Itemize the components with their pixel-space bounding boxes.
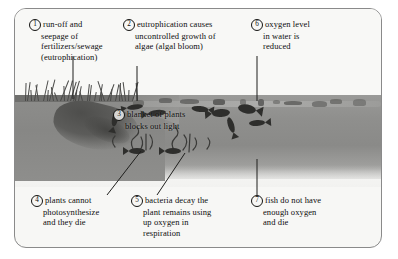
label-number-2: 2 xyxy=(123,19,135,31)
label-text-line: blocks out light xyxy=(113,121,225,131)
label-text-line: and they die xyxy=(31,217,135,227)
label-text-line: up oxygen in xyxy=(131,217,243,227)
label-bacteria-decay: 5bacteria decay the plant remains using … xyxy=(131,195,243,238)
label-text-line: blanket of plants xyxy=(127,109,185,119)
label-text-line: oxygen level xyxy=(265,19,310,29)
label-text-line: fertilizers/sewage xyxy=(29,41,133,51)
label-eutrophication-causes-algae: 2eutrophication causes uncontrolled grow… xyxy=(123,19,247,52)
label-plants-cannot-photosynthesize: 4plants cannot photosynthesize and they … xyxy=(31,195,135,228)
label-text-line: plant remains using xyxy=(131,207,243,217)
label-run-off-and-seepage: 1run-off and seepage of fertilizers/sewa… xyxy=(29,19,133,62)
label-blanket-of-plants: 3blanket of plants blocks out light xyxy=(113,109,225,131)
diagram-root: 1run-off and seepage of fertilizers/sewa… xyxy=(0,0,398,259)
label-text-line: in water is xyxy=(251,31,347,41)
label-number-4: 4 xyxy=(31,195,43,207)
label-text-line: (eutrophication) xyxy=(29,52,133,62)
label-text-line: photosynthesize xyxy=(31,207,135,217)
label-text-line: enough oxygen xyxy=(251,207,355,217)
label-text-line: seepage of xyxy=(29,31,133,41)
label-text-line: reduced xyxy=(251,41,347,51)
label-number-1: 1 xyxy=(29,19,41,31)
label-oxygen-level-reduced: 6oxygen level in water is reduced xyxy=(251,19,347,52)
label-text-line: eutrophication causes xyxy=(137,19,213,29)
label-number-7: 7 xyxy=(251,195,263,207)
label-text-line: algae (algal bloom) xyxy=(123,41,247,51)
label-text-line: bacteria decay the xyxy=(145,195,208,205)
diagram-frame: 1run-off and seepage of fertilizers/sewa… xyxy=(14,8,382,248)
label-text-line: fish do not have xyxy=(265,195,321,205)
label-text-line: run-off and xyxy=(43,19,82,29)
label-text-line: and die xyxy=(251,217,355,227)
label-number-3: 3 xyxy=(113,109,125,121)
label-text-line: uncontrolled growth of xyxy=(123,31,247,41)
label-text-line: respiration xyxy=(131,228,243,238)
label-text-line: plants cannot xyxy=(45,195,91,205)
label-number-5: 5 xyxy=(131,195,143,207)
label-fish-do-not-have-oxygen: 7fish do not have enough oxygen and die xyxy=(251,195,355,228)
label-number-6: 6 xyxy=(251,19,263,31)
